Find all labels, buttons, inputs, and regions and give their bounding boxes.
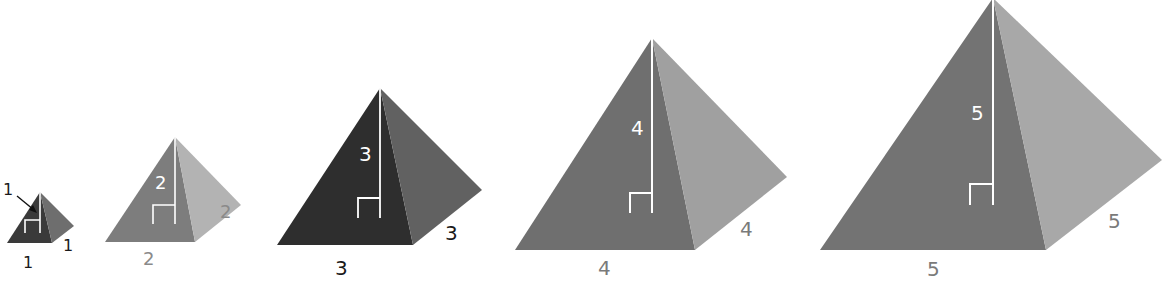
pyramid-3-base-side-label: 3	[445, 221, 458, 245]
pyramid-1-base-side-label: 1	[63, 236, 73, 255]
pyramid-5-height-label: 5	[971, 101, 984, 125]
pyramid-4: 4 4 4	[515, 38, 787, 280]
pyramid-4-height-label: 4	[631, 116, 644, 140]
pyramid-2: 2 2 2	[105, 137, 241, 269]
pyramid-2-base-side-label: 2	[220, 201, 231, 222]
pyramids-diagram: 1 1 1 2 2 2 3 3 3 4 4 4 5 5	[0, 0, 1166, 292]
pyramid-5-base-side-label: 5	[1108, 209, 1121, 233]
pyramid-3-base-front-label: 3	[335, 256, 348, 280]
pyramid-4-base-front-label: 4	[598, 256, 611, 280]
pyramid-1-base-front-label: 1	[23, 253, 33, 272]
pyramid-3-height-label: 3	[359, 142, 372, 166]
pyramid-2-height-label: 2	[155, 172, 166, 193]
pyramid-2-base-front-label: 2	[143, 248, 154, 269]
pyramid-5-base-front-label: 5	[927, 257, 940, 281]
pyramid-5: 5 5 5	[820, 0, 1162, 281]
pyramid-1-height-label: 1	[3, 180, 13, 199]
pyramid-3: 3 3 3	[277, 88, 482, 280]
pyramid-1: 1 1 1	[3, 180, 74, 272]
pyramid-4-base-side-label: 4	[740, 217, 753, 241]
